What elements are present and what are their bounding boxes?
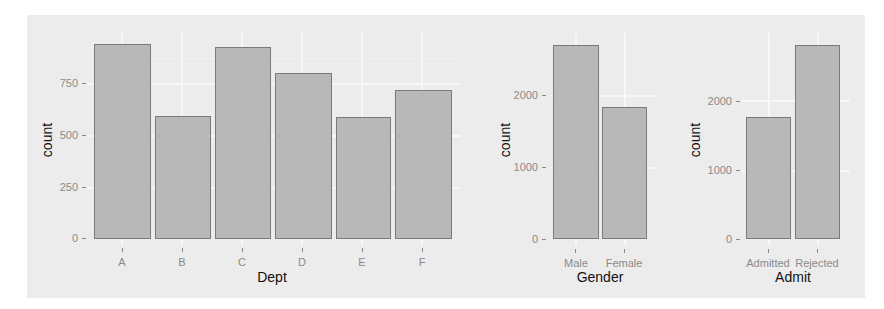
xtick-mark: [817, 249, 818, 253]
y-axis-title: count: [687, 110, 703, 170]
ytick-label: 2000: [692, 95, 732, 107]
x-axis-title: Admit: [743, 269, 843, 285]
ytick-mark: [736, 101, 740, 102]
bar-admit-rejected: [795, 45, 840, 239]
admit-chart: 2000 1000 0 Admitted Rejected Admit coun…: [0, 0, 884, 309]
xtick-label: Rejected: [787, 257, 847, 269]
ytick-label: 0: [692, 233, 732, 245]
xtick-mark: [768, 249, 769, 253]
ytick-mark: [736, 239, 740, 240]
ytick-mark: [736, 170, 740, 171]
bar-admit-admitted: [746, 117, 791, 239]
